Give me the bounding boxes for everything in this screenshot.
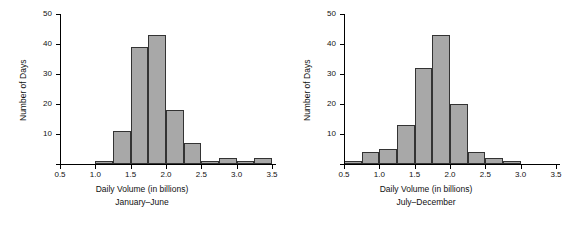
x-tick-label: 2.0: [436, 170, 464, 179]
y-axis-label: Number of Days: [302, 60, 312, 121]
chart-panel-january-june: 0.51.01.52.02.53.03.51020304050Number of…: [0, 0, 284, 227]
histogram-bar: [397, 125, 415, 164]
x-tick-label: 0.5: [46, 170, 74, 179]
y-tick: [340, 134, 344, 135]
histogram-figure: 0.51.01.52.02.53.03.51020304050Number of…: [0, 0, 568, 227]
y-tick-label: 20: [26, 99, 52, 108]
histogram-bar: [166, 110, 184, 164]
panel-subtitle: January–June: [0, 197, 284, 207]
x-tick-label: 3.0: [507, 170, 535, 179]
y-tick-label: 20: [310, 99, 336, 108]
histogram-bar: [415, 68, 433, 164]
x-tick-label: 1.5: [117, 170, 145, 179]
histogram-bar: [362, 152, 380, 164]
chart-panel-july-december: 0.51.01.52.02.53.03.51020304050Number of…: [284, 0, 568, 227]
histogram-bar: [131, 47, 149, 164]
x-tick: [272, 165, 273, 169]
x-tick: [521, 165, 522, 169]
x-tick-label: 0.5: [330, 170, 358, 179]
y-tick-label: 40: [310, 39, 336, 48]
y-axis-line: [344, 14, 345, 164]
x-tick-label: 2.5: [187, 170, 215, 179]
x-tick-label: 1.5: [401, 170, 429, 179]
histogram-bar: [468, 152, 486, 164]
x-tick: [450, 165, 451, 169]
x-tick-label: 2.0: [152, 170, 180, 179]
histogram-bar: [432, 35, 450, 164]
y-tick: [56, 74, 60, 75]
histogram-bar: [184, 143, 202, 164]
panel-subtitle: July–December: [284, 197, 568, 207]
y-axis-label: Number of Days: [18, 60, 28, 121]
y-tick: [56, 134, 60, 135]
x-tick-label: 1.0: [365, 170, 393, 179]
y-tick: [56, 14, 60, 15]
y-tick-label: 30: [310, 69, 336, 78]
x-tick: [556, 165, 557, 169]
x-tick: [95, 165, 96, 169]
histogram-bar: [450, 104, 468, 164]
x-tick: [201, 165, 202, 169]
x-tick: [166, 165, 167, 169]
histogram-bar: [113, 131, 131, 164]
y-tick-label: 30: [26, 69, 52, 78]
x-tick-label: 2.5: [471, 170, 499, 179]
histogram-bar: [379, 149, 397, 164]
y-tick: [340, 104, 344, 105]
y-tick-label: 10: [310, 129, 336, 138]
y-tick: [340, 74, 344, 75]
y-axis-line: [60, 14, 61, 164]
x-axis-label: Daily Volume (in billions): [284, 184, 568, 194]
x-tick: [415, 165, 416, 169]
x-tick-label: 3.5: [542, 170, 568, 179]
x-tick-label: 1.0: [81, 170, 109, 179]
x-tick: [237, 165, 238, 169]
y-tick: [340, 44, 344, 45]
x-tick: [344, 165, 345, 169]
x-tick: [379, 165, 380, 169]
x-tick: [485, 165, 486, 169]
y-tick: [56, 44, 60, 45]
y-tick: [56, 104, 60, 105]
y-tick-label: 10: [26, 129, 52, 138]
y-tick-label: 40: [26, 39, 52, 48]
x-tick-label: 3.5: [258, 170, 286, 179]
x-tick-label: 3.0: [223, 170, 251, 179]
y-tick: [340, 14, 344, 15]
x-tick: [60, 165, 61, 169]
x-axis-label: Daily Volume (in billions): [0, 184, 284, 194]
histogram-bar: [148, 35, 166, 164]
y-tick-label: 50: [310, 9, 336, 18]
x-tick: [131, 165, 132, 169]
y-tick-label: 50: [26, 9, 52, 18]
